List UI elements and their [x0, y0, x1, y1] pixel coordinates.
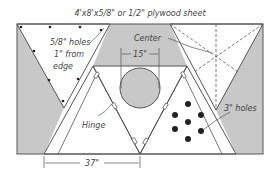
- large-holes-label: 3" holes: [224, 104, 257, 113]
- hinge-label: Hinge: [82, 121, 105, 130]
- strip-line: [58, 73, 97, 154]
- circle-width-label: 15": [133, 50, 147, 59]
- base-width-label: 37": [85, 159, 99, 168]
- sheet-title: 4'x8'x5/8" or 1/2" plywood sheet: [74, 9, 206, 18]
- center-circle-cutout: [120, 68, 160, 108]
- right-waste-region: [216, 24, 263, 154]
- small-holes-label-3: edge: [53, 62, 73, 71]
- small-holes-label-2: 1" from: [54, 50, 84, 59]
- small-holes-label-1: 5/8" holes: [50, 38, 90, 47]
- plywood-cutting-diagram: 4'x8'x5/8" or 1/2" plywood sheet 5/8" ho…: [0, 0, 277, 175]
- center-label: Center: [134, 34, 162, 43]
